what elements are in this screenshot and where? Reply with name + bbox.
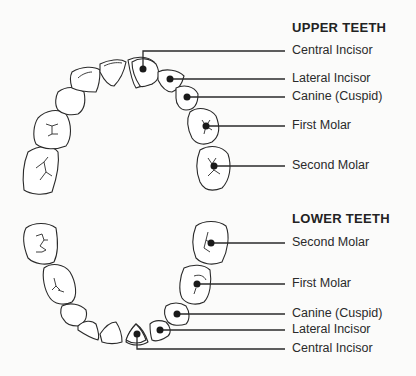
upper-label-central-incisor: Central Incisor	[292, 43, 373, 57]
upper-left-premolar-1	[71, 67, 101, 92]
lower-left-second-molar	[24, 224, 57, 265]
lower-label-canine: Canine (Cuspid)	[292, 306, 382, 320]
upper-lateral-incisor-dot	[167, 76, 174, 83]
lower-first-molar-dot	[194, 281, 201, 288]
lower-label-second-molar: Second Molar	[292, 235, 369, 249]
lower-central-incisor-dot	[134, 331, 141, 338]
upper-label-first-molar: First Molar	[292, 118, 351, 132]
upper-label-lateral-incisor: Lateral Incisor	[292, 71, 371, 85]
upper-left-second-molar	[23, 147, 58, 194]
lower-label-lateral-incisor: Lateral Incisor	[292, 322, 371, 336]
lower-label-central-incisor: Central Incisor	[292, 341, 373, 355]
upper-arch	[23, 57, 230, 194]
upper-central-incisor-dot	[140, 66, 147, 73]
lower-second-molar-dot	[208, 240, 215, 247]
upper-left-premolar-2	[56, 88, 85, 115]
lower-canine-dot	[174, 311, 181, 318]
lower-teeth-title: LOWER TEETH	[292, 211, 390, 226]
lower-left-first-molar	[43, 265, 75, 305]
upper-left-lateral-incisor	[100, 60, 126, 86]
lower-lateral-incisor-dot	[157, 327, 164, 334]
upper-first-molar-dot	[203, 123, 210, 130]
lower-label-first-molar: First Molar	[292, 276, 351, 290]
lower-left-lateral-incisor	[100, 322, 122, 344]
upper-label-second-molar: Second Molar	[292, 158, 369, 172]
upper-second-molar-dot	[211, 163, 218, 170]
upper-teeth-title: UPPER TEETH	[292, 20, 386, 35]
upper-central-incisor-leader	[143, 51, 285, 69]
upper-canine-dot	[184, 94, 191, 101]
upper-label-canine: Canine (Cuspid)	[292, 89, 382, 103]
lower-left-premolar-1	[78, 321, 99, 340]
